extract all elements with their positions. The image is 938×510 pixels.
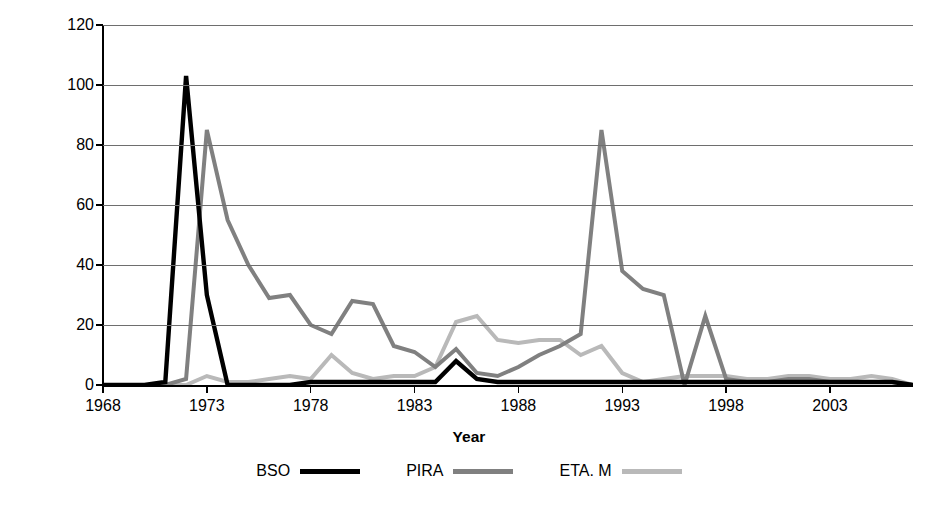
- legend-swatch: [453, 469, 513, 474]
- y-tick-label: 120: [42, 17, 94, 33]
- x-tick-label: 1983: [380, 396, 450, 415]
- legend-label: PIRA: [406, 462, 443, 480]
- gridline: [103, 325, 913, 326]
- gridline: [103, 205, 913, 206]
- y-tick-label: 100: [42, 77, 94, 93]
- legend-swatch: [622, 469, 682, 474]
- x-tick-label: 1978: [276, 396, 346, 415]
- legend-label: BSO: [256, 462, 290, 480]
- legend-swatch: [300, 469, 360, 474]
- gridline: [103, 265, 913, 266]
- x-tick-label: 1968: [68, 396, 138, 415]
- gridline: [103, 85, 913, 86]
- x-tick-mark: [206, 386, 207, 393]
- x-tick-mark: [518, 386, 519, 393]
- x-tick-mark: [622, 386, 623, 393]
- plot-area: [103, 25, 913, 385]
- x-tick-label: 1998: [691, 396, 761, 415]
- y-tick-mark: [96, 324, 103, 325]
- x-tick-mark: [310, 386, 311, 393]
- y-tick-label: 40: [42, 257, 94, 273]
- y-tick-label: 80: [42, 137, 94, 153]
- gridline: [103, 145, 913, 146]
- legend-item: ETA. M: [559, 462, 681, 480]
- y-tick-label: 20: [42, 317, 94, 333]
- series-line-bso: [103, 76, 913, 385]
- x-tick-label: 1988: [483, 396, 553, 415]
- series-line-pira: [103, 130, 913, 385]
- x-tick-mark: [414, 386, 415, 393]
- x-tick-mark: [102, 386, 103, 393]
- y-tick-label: 0: [42, 377, 94, 393]
- y-tick-mark: [96, 204, 103, 205]
- chart-legend: BSOPIRAETA. M: [0, 462, 938, 480]
- legend-label: ETA. M: [559, 462, 611, 480]
- legend-item: BSO: [256, 462, 360, 480]
- gridline: [103, 25, 913, 26]
- y-tick-mark: [96, 84, 103, 85]
- x-axis-title: Year: [0, 428, 938, 446]
- x-tick-mark: [829, 386, 830, 393]
- x-tick-label: 2003: [795, 396, 865, 415]
- y-tick-label: 60: [42, 197, 94, 213]
- legend-item: PIRA: [406, 462, 513, 480]
- chart-figure: Number of incidents 020406080100120 Year…: [0, 0, 938, 510]
- y-tick-mark: [96, 144, 103, 145]
- y-tick-mark: [96, 24, 103, 25]
- x-tick-mark: [725, 386, 726, 393]
- y-tick-mark: [96, 264, 103, 265]
- x-tick-label: 1993: [587, 396, 657, 415]
- x-tick-label: 1973: [172, 396, 242, 415]
- x-axis-line: [103, 385, 913, 387]
